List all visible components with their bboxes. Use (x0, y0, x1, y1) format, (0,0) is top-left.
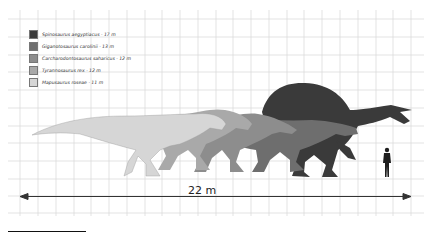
footnote-rule (8, 231, 86, 232)
legend-swatch (29, 66, 38, 75)
legend-swatch (29, 42, 38, 51)
legend-label: Spinosaurus aegyptiacus · 17 m (42, 32, 116, 37)
legend-item-carcharodontosaurus: Carcharodontosaurus saharicus · 12 m (29, 53, 131, 65)
legend: Spinosaurus aegyptiacus · 17 m Giganotos… (29, 29, 131, 89)
legend-swatch (29, 30, 38, 39)
legend-label: Giganotosaurus carolinii · 13 m (42, 44, 114, 49)
legend-item-giganotosaurus: Giganotosaurus carolinii · 13 m (29, 41, 131, 53)
legend-item-spinosaurus: Spinosaurus aegyptiacus · 17 m (29, 29, 131, 41)
scale-label: 22 m (188, 184, 216, 197)
legend-label: Carcharodontosaurus saharicus · 12 m (42, 56, 131, 61)
human-silhouette (383, 148, 391, 177)
legend-item-tyrannosaurus: Tyrannosaurus rex · 12 m (29, 65, 131, 77)
legend-swatch (29, 78, 38, 87)
legend-swatch (29, 54, 38, 63)
legend-label: Mapusaurus roseae · 11 m (42, 80, 103, 85)
legend-label: Tyrannosaurus rex · 12 m (42, 68, 101, 73)
legend-item-mapusaurus: Mapusaurus roseae · 11 m (29, 77, 131, 89)
size-comparison-diagram: Spinosaurus aegyptiacus · 17 m Giganotos… (0, 0, 434, 234)
